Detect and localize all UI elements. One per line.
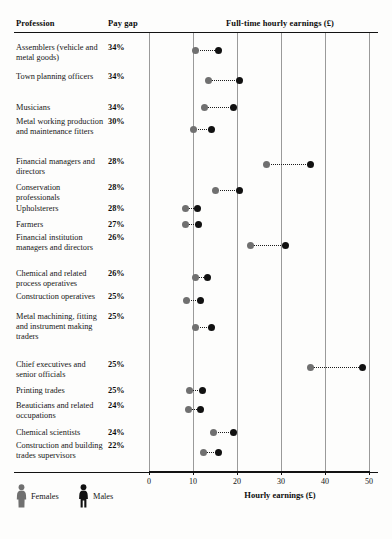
- row-profession-label: Construction and building trades supervi…: [16, 441, 104, 461]
- row-profession-label: Construction operatives: [16, 292, 104, 302]
- row-profession-label: Farmers: [16, 220, 104, 230]
- row-pay-gap-value: 34%: [108, 43, 142, 53]
- row-profession-label: Metal working production and maintenance…: [16, 117, 104, 137]
- row-profession-label: Assemblers (vehicle and metal goods): [16, 43, 104, 63]
- row-pay-gap-value: 30%: [108, 117, 142, 127]
- x-axis-title: Hourly earnings (£): [190, 490, 370, 500]
- x-axis-tick-label: 30: [269, 477, 293, 486]
- row-pay-gap-value: 25%: [108, 292, 142, 302]
- row-profession-label: Town planning officers: [16, 72, 104, 82]
- legend-item-females: Females: [16, 484, 59, 508]
- row-pay-gap-value: 25%: [108, 312, 142, 322]
- x-axis-tick: [149, 471, 150, 475]
- x-axis-tick: [281, 471, 282, 475]
- row-pay-gap-value: 24%: [108, 401, 142, 411]
- row-pay-gap-value: 22%: [108, 441, 142, 451]
- row-profession-label: Chemical scientists: [16, 428, 104, 438]
- row-pay-gap-value: 27%: [108, 220, 142, 230]
- x-axis-tick-label: 40: [313, 477, 337, 486]
- row-pay-gap-value: 28%: [108, 183, 142, 193]
- person-figure-icon-male: [78, 484, 89, 508]
- row-profession-label: Beauticians and related occupations: [16, 401, 104, 421]
- row-profession-label: Upholsterers: [16, 204, 104, 214]
- row-pay-gap-value: 25%: [108, 360, 142, 370]
- row-pay-gap-value: 26%: [108, 269, 142, 279]
- x-axis-tick: [237, 471, 238, 475]
- row-pay-gap-value: 28%: [108, 157, 142, 167]
- legend-label-males: Males: [93, 492, 113, 501]
- x-axis-tick-label: 10: [181, 477, 205, 486]
- pay-gap-chart-page: Profession Pay gap Full-time hourly earn…: [0, 0, 392, 539]
- x-axis-tick-label: 50: [357, 477, 381, 486]
- person-figure-icon-female: [16, 484, 27, 508]
- legend-item-males: Males: [78, 484, 113, 508]
- row-profession-label: Conservation professionals: [16, 183, 104, 203]
- row-pay-gap-value: 28%: [108, 204, 142, 214]
- x-axis-tick: [325, 471, 326, 475]
- x-axis-line: [149, 471, 369, 472]
- x-axis-tick-label: 20: [225, 477, 249, 486]
- row-profession-label: Printing trades: [16, 386, 104, 396]
- row-profession-label: Chief executives and senior officials: [16, 360, 104, 380]
- row-pay-gap-value: 34%: [108, 103, 142, 113]
- x-axis-tick: [369, 471, 370, 475]
- legend-label-females: Females: [31, 492, 59, 501]
- row-profession-label: Metal machining, fitting and instrument …: [16, 312, 104, 343]
- row-profession-label: Musicians: [16, 103, 104, 113]
- row-pay-gap-value: 24%: [108, 428, 142, 438]
- x-axis-tick-label: 0: [137, 477, 161, 486]
- row-pay-gap-value: 26%: [108, 233, 142, 243]
- row-pay-gap-value: 34%: [108, 72, 142, 82]
- row-profession-label: Financial managers and directors: [16, 157, 104, 177]
- row-profession-label: Financial institution managers and direc…: [16, 233, 104, 253]
- row-pay-gap-value: 25%: [108, 386, 142, 396]
- table-rows-layer: Assemblers (vehicle and metal goods)34%T…: [0, 0, 392, 539]
- x-axis-tick: [193, 471, 194, 475]
- row-profession-label: Chemical and related process operatives: [16, 269, 104, 289]
